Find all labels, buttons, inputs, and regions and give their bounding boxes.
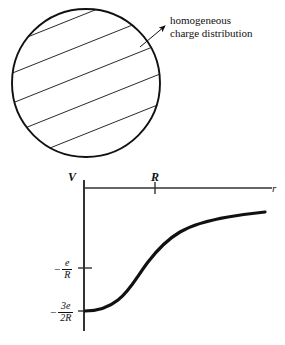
- fraction-numerator: e: [63, 258, 71, 269]
- x-axis-label: r: [272, 182, 276, 194]
- sphere-hatching: [0, 0, 240, 312]
- fraction-denominator: R: [62, 270, 72, 281]
- charge-sphere-group: [0, 0, 240, 312]
- charge-distribution-annotation: homogeneous charge distribution: [170, 14, 253, 40]
- fraction-e-over-R: e R: [62, 258, 72, 280]
- minus-sign: −: [50, 307, 56, 318]
- minus-sign: −: [54, 264, 60, 275]
- potential-curve: [85, 212, 265, 311]
- y-tick-label-3e-over-2R: − 3e 2R: [50, 301, 73, 323]
- y-axis-label: V: [68, 170, 76, 185]
- annotation-line-1: homogeneous: [170, 14, 231, 26]
- x-tick-label-R: R: [151, 170, 159, 185]
- y-tick-label-e-over-R: − e R: [54, 258, 72, 280]
- physics-figure: homogeneous charge distribution V r R − …: [0, 0, 285, 345]
- figure-canvas: [0, 0, 285, 345]
- fraction-3e-over-2R: 3e 2R: [58, 301, 73, 323]
- fraction-numerator: 3e: [59, 301, 72, 312]
- fraction-denominator: 2R: [58, 313, 73, 324]
- annotation-line-2: charge distribution: [170, 27, 253, 39]
